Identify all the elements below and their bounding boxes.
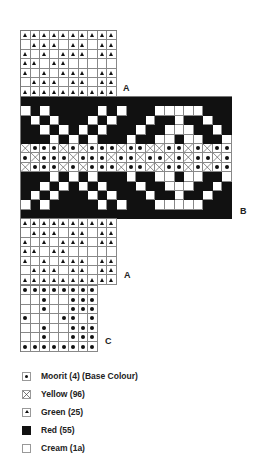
cross-symbol-icon — [22, 390, 31, 399]
chart-cell-triangle — [50, 219, 60, 228]
chart-cell-solid — [203, 97, 213, 106]
chart-cell-triangle — [69, 266, 79, 275]
chart-cell-solid — [21, 125, 31, 134]
chart-cell-empty — [50, 333, 60, 342]
chart-cell-dot — [40, 305, 50, 314]
triangle-icon — [23, 259, 27, 263]
dot-icon — [177, 156, 181, 160]
triangle-icon — [32, 221, 36, 225]
chart-cell-solid — [127, 200, 137, 209]
chart-cell-triangle — [69, 238, 79, 247]
chart-cell-empty — [88, 78, 98, 87]
chart-cell-solid — [155, 125, 165, 134]
dot-icon — [71, 345, 75, 349]
chart-cell-solid — [127, 106, 137, 115]
chart-cell-triangle — [40, 275, 50, 284]
chart-cell-triangle — [107, 228, 117, 237]
chart-cell-solid — [98, 191, 108, 200]
chart-cell-solid — [222, 182, 232, 191]
chart-cell-solid — [146, 182, 156, 191]
dot-icon — [90, 335, 94, 339]
chart-cell-cross — [203, 163, 213, 172]
chart-cell-dot — [69, 144, 79, 153]
chart-cell-solid — [203, 200, 213, 209]
chart-cell-solid — [40, 135, 50, 144]
chart-cell-triangle — [79, 50, 89, 59]
chart-cell-solid — [69, 97, 79, 106]
chart-cell-empty — [175, 182, 185, 191]
chart-cell-empty — [31, 257, 41, 266]
chart-cell-solid — [213, 210, 223, 219]
chart-cell-solid — [31, 125, 41, 134]
chart-cell-empty — [88, 59, 98, 68]
chart-cell-dot — [88, 305, 98, 314]
dot-icon — [81, 335, 85, 339]
top-triangle-grid — [20, 30, 117, 97]
cross-icon — [59, 144, 68, 152]
chart-cell-cross — [213, 153, 223, 162]
chart-cell-triangle — [21, 247, 31, 256]
chart-cell-solid — [117, 97, 127, 106]
chart-cell-empty — [88, 191, 98, 200]
chart-cell-solid — [136, 200, 146, 209]
chart-cell-solid — [40, 116, 50, 125]
chart-cell-empty — [88, 238, 98, 247]
chart-cell-solid — [213, 135, 223, 144]
chart-cell-dot — [59, 153, 69, 162]
dot-icon — [119, 156, 123, 160]
dot-icon — [42, 326, 46, 330]
chart-cell-dot — [50, 153, 60, 162]
chart-cell-solid — [213, 106, 223, 115]
chart-cell-solid — [117, 125, 127, 134]
chart-cell-triangle — [31, 219, 41, 228]
chart-cell-triangle — [69, 50, 79, 59]
chart-cell-triangle — [59, 50, 69, 59]
solid-square-icon — [22, 426, 31, 435]
cross-icon — [165, 153, 174, 161]
chart-cell-triangle — [40, 69, 50, 78]
chart-cell-solid — [222, 210, 232, 219]
chart-cell-dot — [40, 324, 50, 333]
label-a-bottom: A — [124, 270, 131, 280]
chart-cell-empty — [79, 182, 89, 191]
chart-cell-empty — [165, 200, 175, 209]
triangle-icon — [109, 33, 113, 37]
dot-icon — [225, 146, 229, 150]
chart-cell-triangle — [50, 266, 60, 275]
dot-icon — [81, 345, 85, 349]
chart-cell-triangle — [79, 238, 89, 247]
triangle-icon — [32, 61, 36, 65]
triangle-icon — [61, 278, 65, 282]
chart-cell-empty — [21, 333, 31, 342]
chart-cell-dot — [59, 286, 69, 295]
chart-cell-solid — [88, 106, 98, 115]
chart-cell-dot — [40, 342, 50, 351]
cross-icon — [21, 163, 30, 171]
chart-cell-solid — [203, 135, 213, 144]
triangle-icon — [90, 221, 94, 225]
triangle-icon — [109, 268, 113, 272]
chart-cell-solid — [222, 125, 232, 134]
chart-cell-solid — [117, 191, 127, 200]
dot-icon — [196, 146, 200, 150]
chart-cell-empty — [79, 59, 89, 68]
chart-cell-triangle — [107, 238, 117, 247]
chart-cell-solid — [184, 116, 194, 125]
empty-square-icon — [22, 444, 31, 453]
chart-cell-empty — [59, 40, 69, 49]
chart-cell-triangle — [40, 50, 50, 59]
chart-cell-triangle — [69, 40, 79, 49]
chart-cell-empty — [59, 333, 69, 342]
triangle-icon — [32, 43, 36, 47]
legend-item-green: Green (25) — [22, 403, 138, 421]
chart-cell-empty — [31, 295, 41, 304]
chart-cell-empty — [194, 200, 204, 209]
chart-cell-dot — [88, 153, 98, 162]
chart-cell-solid — [127, 210, 137, 219]
chart-cell-empty — [31, 191, 41, 200]
dot-icon — [90, 165, 94, 169]
chart-cell-solid — [155, 210, 165, 219]
chart-cell-empty — [222, 172, 232, 181]
chart-cell-triangle — [50, 59, 60, 68]
dot-icon — [42, 345, 46, 349]
